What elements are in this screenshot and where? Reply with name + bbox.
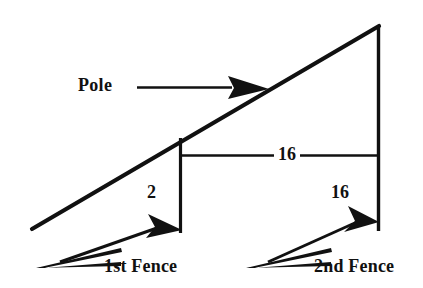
first-fence-label: 1st Fence [104,257,177,275]
first-fence-height-label: 2 [147,183,156,201]
diagram-canvas: Pole 16 2 16 1st Fence 2nd Fence [0,0,423,288]
figure-svg [0,0,423,288]
pole-line [32,26,379,229]
arrow-up-right-icon [146,214,182,238]
second-fence-height-label: 16 [331,183,349,201]
pole-label: Pole [78,76,112,94]
second-fence-label: 2nd Fence [314,257,394,275]
arrow-up-right-icon-2 [344,206,379,232]
horizontal-dimension-label: 16 [274,145,300,163]
